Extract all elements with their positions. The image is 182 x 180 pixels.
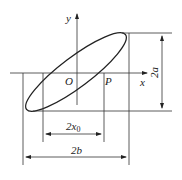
label-2b: 2b	[71, 144, 83, 156]
label-origin: O	[65, 75, 73, 87]
label-p: P	[104, 75, 112, 87]
tilted-ellipse	[17, 23, 134, 122]
label-2a: 2a	[148, 67, 160, 79]
label-y: y	[65, 12, 71, 24]
label-2x0: 2x0	[66, 120, 80, 134]
ellipse-diagram: 2a 2x0 2b y x O P	[0, 0, 182, 180]
label-x: x	[139, 76, 145, 88]
